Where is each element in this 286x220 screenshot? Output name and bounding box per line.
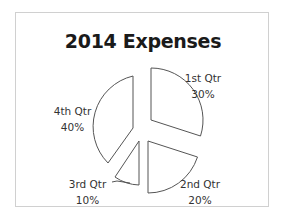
label-3rd-qtr: 3rd Qtr 10% xyxy=(60,176,115,208)
label-2nd-qtr: 2nd Qtr 20% xyxy=(170,176,230,208)
pie-chart xyxy=(0,0,286,220)
label-4th-qtr: 4th Qtr 40% xyxy=(45,103,100,135)
label-1st-qtr: 1st Qtr 30% xyxy=(178,70,228,102)
